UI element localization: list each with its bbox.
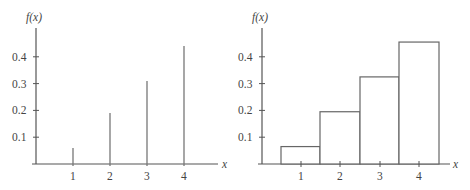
x-ticks: 1234 xyxy=(70,170,187,182)
x-tick-label: 3 xyxy=(144,170,150,182)
x-tick-label: 4 xyxy=(416,170,422,182)
y-tick-label: 0.3 xyxy=(12,78,27,90)
histogram-bar xyxy=(360,77,399,164)
histogram: f(x) x 0.10.20.30.4 1234 xyxy=(238,11,459,182)
stem-plot: f(x) x 0.10.20.30.4 1234 xyxy=(12,11,228,182)
y-tick-label: 0.1 xyxy=(238,131,253,143)
y-tick-label: 0.2 xyxy=(238,104,253,116)
x-tick-label: 4 xyxy=(181,170,187,182)
y-tick-label: 0.4 xyxy=(12,51,27,63)
x-tick-label: 1 xyxy=(298,170,304,182)
y-axis-label: f(x) xyxy=(26,11,42,24)
y-axis-label: f(x) xyxy=(252,11,268,24)
charts-canvas: f(x) x 0.10.20.30.4 1234 f(x) x 0.10.20.… xyxy=(0,0,470,190)
x-axis-label: x xyxy=(221,158,228,170)
histogram-bar xyxy=(320,112,360,164)
y-tick-label: 0.2 xyxy=(12,104,27,116)
x-tick-label: 2 xyxy=(107,170,113,182)
y-ticks: 0.10.20.30.4 xyxy=(238,51,265,143)
y-tick-label: 0.1 xyxy=(12,131,27,143)
bars xyxy=(281,42,439,164)
x-tick-label: 2 xyxy=(337,170,343,182)
y-ticks: 0.10.20.30.4 xyxy=(12,51,39,143)
x-axis-label: x xyxy=(452,158,459,170)
histogram-bar xyxy=(399,42,439,164)
stems xyxy=(73,46,184,166)
x-tick-label: 3 xyxy=(377,170,383,182)
y-tick-label: 0.3 xyxy=(238,78,253,90)
x-tick-label: 1 xyxy=(70,170,76,182)
y-tick-label: 0.4 xyxy=(238,51,253,63)
